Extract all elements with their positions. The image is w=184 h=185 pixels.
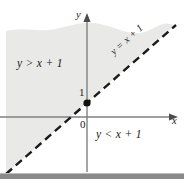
shaded-region-above	[6, 23, 174, 172]
region-label-below: y < x + 1	[96, 129, 142, 141]
bottom-rule-bar	[0, 173, 184, 179]
inequality-graph-figure: y > x + 1 y < x + 1 y = x + 1 x y 0 1	[0, 0, 184, 185]
x-axis-label: x	[172, 116, 177, 127]
y-axis-label: y	[76, 10, 81, 21]
y-intercept-label: 1	[79, 87, 85, 98]
region-label-above: y > x + 1	[17, 58, 63, 70]
y-intercept-point	[83, 99, 90, 106]
coordinate-plane	[0, 0, 184, 185]
origin-label: 0	[80, 119, 86, 130]
